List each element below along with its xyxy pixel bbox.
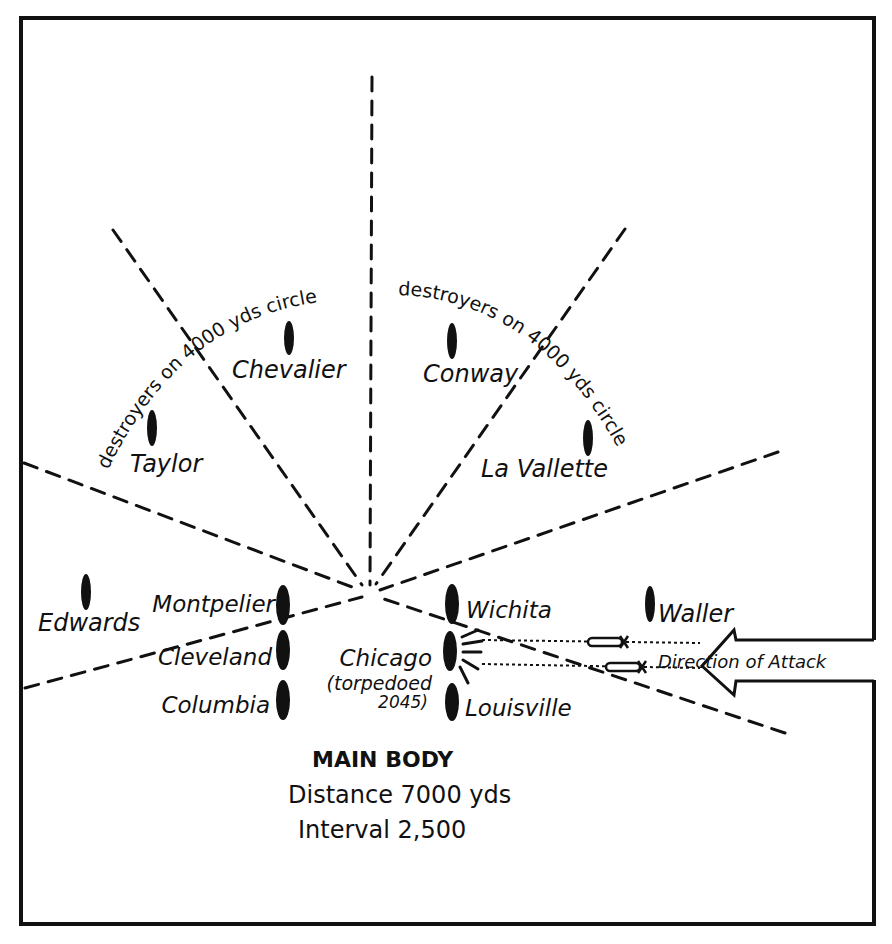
ship-label: Columbia (161, 692, 270, 718)
explosion-icon (460, 630, 482, 683)
bearing-line-west-upper (24, 463, 360, 590)
ship-icon (276, 585, 290, 625)
caption-title: MAIN BODY (312, 747, 454, 772)
ship-icon (645, 586, 655, 622)
destroyer-taylor: Taylor (130, 410, 204, 478)
ship-icon (147, 410, 157, 446)
ship-icon (445, 683, 459, 721)
ship-icon (284, 321, 294, 355)
ship-icon (445, 584, 459, 624)
destroyer-la-vallette: La Vallette (481, 420, 608, 483)
ship-icon (447, 323, 457, 359)
ship-icon (81, 574, 91, 610)
ship-label: La Vallette (481, 455, 608, 483)
ship-label: Cleveland (158, 644, 272, 670)
cruiser-wichita: Wichita (445, 584, 552, 624)
bearing-line-northwest (113, 230, 362, 585)
ship-icon (443, 631, 457, 671)
ship-label: Conway (423, 360, 519, 388)
caption-interval: Interval 2,500 (298, 816, 466, 844)
cruiser-columbia: Columbia (161, 680, 290, 720)
destroyer-chevalier: Chevalier (232, 321, 348, 384)
destroyer-edwards: Edwards (38, 574, 140, 637)
ship-label: Waller (658, 600, 735, 628)
ship-label: Taylor (130, 450, 204, 478)
ship-label: Chicago (340, 645, 432, 671)
torpedoed-note: (torpedoed (327, 672, 433, 694)
ship-label: Montpelier (152, 591, 276, 617)
cruiser-louisville: Louisville (445, 683, 572, 721)
ship-icon (276, 630, 290, 670)
cruiser-montpelier: Montpelier (152, 585, 290, 625)
cruiser-cleveland: Cleveland (158, 630, 290, 670)
ship-label: Chevalier (232, 356, 348, 384)
torpedo-icon (606, 661, 646, 673)
torpedo-icon (588, 636, 628, 648)
battle-diagram: destroyers on 4000 yds circle destroyers… (0, 0, 892, 944)
ship-label: Louisville (465, 695, 572, 721)
ship-label: Edwards (38, 609, 140, 637)
ship-label: Wichita (466, 597, 552, 623)
destroyer-conway: Conway (423, 323, 519, 388)
destroyer-waller: Waller (645, 586, 735, 628)
ship-icon (276, 680, 290, 720)
caption-distance: Distance 7000 yds (288, 781, 511, 809)
torpedoed-time: 2045) (378, 692, 428, 712)
ship-icon (583, 420, 593, 456)
bearing-line-north (370, 77, 372, 585)
arrow-label: Direction of Attack (658, 651, 828, 672)
